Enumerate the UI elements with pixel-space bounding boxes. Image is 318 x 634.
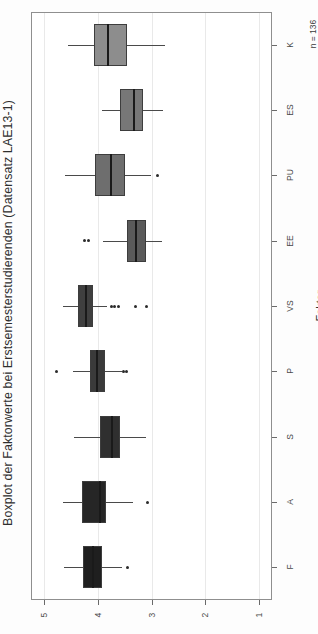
median-line bbox=[135, 220, 137, 262]
outlier-point bbox=[113, 305, 116, 308]
outlier-point bbox=[55, 370, 58, 373]
median-line bbox=[99, 481, 101, 523]
category-label-K: K bbox=[284, 32, 296, 58]
box-A bbox=[82, 481, 106, 523]
category-tick-P bbox=[272, 371, 277, 372]
category-tick-ES bbox=[272, 110, 277, 111]
whisker-high bbox=[127, 45, 164, 46]
whisker-high bbox=[146, 241, 162, 242]
median-line bbox=[92, 546, 94, 588]
category-tick-VS bbox=[272, 306, 277, 307]
whisker-low bbox=[68, 45, 93, 46]
category-label-F: F bbox=[284, 554, 296, 580]
box-K bbox=[94, 24, 128, 66]
sample-size-note: n = 136 bbox=[307, 11, 318, 57]
whisker-high bbox=[93, 306, 107, 307]
category-label-ES: ES bbox=[284, 97, 296, 123]
box-ES bbox=[120, 89, 143, 131]
gridline-3 bbox=[152, 13, 153, 599]
whisker-high bbox=[106, 502, 133, 503]
outlier-point bbox=[146, 501, 149, 504]
category-label-PU: PU bbox=[284, 162, 296, 188]
category-tick-K bbox=[272, 45, 277, 46]
whisker-low bbox=[63, 502, 82, 503]
category-label-P: P bbox=[284, 358, 296, 384]
category-tick-PU bbox=[272, 175, 277, 176]
whisker-low bbox=[64, 567, 83, 568]
whisker-low bbox=[63, 306, 78, 307]
axis-title-faktor: Faktor bbox=[313, 276, 318, 336]
median-line bbox=[110, 154, 112, 196]
whisker-high bbox=[102, 567, 122, 568]
whisker-low bbox=[74, 437, 100, 438]
whisker-high bbox=[105, 371, 122, 372]
outlier-point bbox=[117, 305, 120, 308]
outlier-point bbox=[125, 370, 128, 373]
category-label-S: S bbox=[284, 424, 296, 450]
category-tick-A bbox=[272, 502, 277, 503]
median-line bbox=[133, 89, 135, 131]
value-tick-label-2: 2 bbox=[199, 603, 211, 627]
category-label-A: A bbox=[284, 489, 296, 515]
value-tick-label-4: 4 bbox=[92, 603, 104, 627]
whisker-high bbox=[120, 437, 146, 438]
category-label-VS: VS bbox=[284, 293, 296, 319]
category-label-EE: EE bbox=[284, 228, 296, 254]
median-line bbox=[85, 285, 87, 327]
value-tick-label-1: 1 bbox=[253, 603, 265, 627]
whisker-low bbox=[102, 110, 121, 111]
whisker-high bbox=[125, 175, 152, 176]
whisker-high bbox=[143, 110, 163, 111]
whisker-low bbox=[73, 371, 90, 372]
value-tick-label-3: 3 bbox=[146, 603, 158, 627]
category-tick-F bbox=[272, 567, 277, 568]
gridline-2 bbox=[205, 13, 206, 599]
outlier-point bbox=[134, 305, 137, 308]
category-tick-EE bbox=[272, 241, 277, 242]
boxplot-figure: Boxplot der Faktorwerte bei Erstsemester… bbox=[0, 0, 318, 634]
chart-title: Boxplot der Faktorwerte bei Erstsemester… bbox=[1, 23, 23, 603]
value-tick-label-5: 5 bbox=[38, 603, 50, 627]
gridline-5 bbox=[44, 13, 45, 599]
median-line bbox=[111, 416, 113, 458]
whisker-low bbox=[103, 241, 127, 242]
whisker-low bbox=[65, 175, 96, 176]
gridline-1 bbox=[259, 13, 260, 599]
outlier-point bbox=[145, 305, 148, 308]
median-line bbox=[107, 24, 109, 66]
category-tick-S bbox=[272, 437, 277, 438]
median-line bbox=[96, 350, 98, 392]
